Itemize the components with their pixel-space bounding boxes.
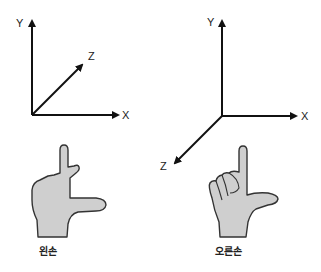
coordinate-systems-diagram [0, 0, 321, 272]
right-z-axis [175, 116, 222, 163]
right-hand-label: 오른손 [215, 243, 242, 258]
left-x-label: X [122, 109, 129, 121]
right-x-label: X [301, 110, 308, 122]
right-y-label: Y [207, 16, 214, 28]
left-hand-label: 왼손 [39, 243, 57, 258]
left-z-label: Z [88, 50, 95, 62]
left-hand-icon [32, 145, 106, 237]
left-axes [32, 21, 118, 115]
right-hand-icon [209, 146, 278, 237]
left-y-label: Y [16, 17, 23, 29]
right-z-label: Z [160, 160, 167, 172]
left-z-axis [32, 65, 82, 115]
right-axes [175, 21, 296, 163]
